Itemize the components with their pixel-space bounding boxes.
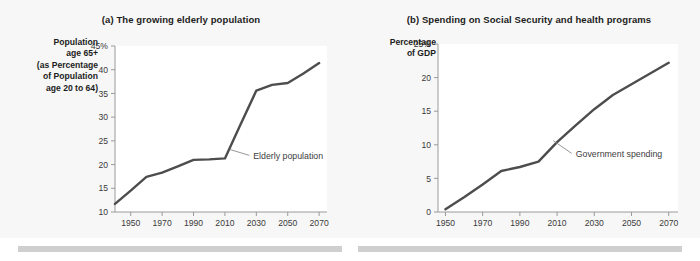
chart-panel-b: (b) Spending on Social Security and heal… xyxy=(350,0,700,238)
x-axis-tick-label: 1990 xyxy=(510,218,529,228)
x-axis-tick-label: 2070 xyxy=(310,218,329,228)
y-axis-tick-label: 15 xyxy=(98,183,108,193)
y-axis-tick-label: 30 xyxy=(98,112,108,122)
x-axis-tick-label: 1950 xyxy=(436,218,455,228)
chart-a-plot: 1015202530354045%19501970199020102030205… xyxy=(0,0,350,238)
x-axis-tick-label: 2030 xyxy=(585,218,604,228)
plot-background xyxy=(438,44,678,212)
x-axis-tick-label: 1970 xyxy=(473,218,492,228)
x-axis-tick-label: 2070 xyxy=(659,218,678,228)
x-axis-tick-label: 1970 xyxy=(153,218,172,228)
y-axis-tick-label: 40 xyxy=(98,65,108,75)
bottom-shadow-gap xyxy=(342,246,358,252)
x-axis-tick-label: 1950 xyxy=(121,218,140,228)
y-axis-tick-label: 25 xyxy=(98,136,108,146)
y-axis-tick-label: 20 xyxy=(98,160,108,170)
y-axis-tick-label: 10 xyxy=(421,140,431,150)
y-axis-label-line: of GDP xyxy=(352,48,436,59)
chart-panel-a: (a) The growing elderly population Popul… xyxy=(0,0,350,238)
y-axis-tick-label: 15 xyxy=(421,106,431,116)
annotation-label: Elderly population xyxy=(253,151,323,161)
y-axis-tick-label: 10 xyxy=(98,207,108,217)
y-axis-tick-label: 20 xyxy=(421,73,431,83)
x-axis-tick-label: 2010 xyxy=(548,218,567,228)
plot-background xyxy=(115,46,327,212)
chart-b-plot: 0510152025%1950197019902010203020502070G… xyxy=(350,0,700,238)
x-axis-tick-label: 2050 xyxy=(622,218,641,228)
y-axis-tick-label: 0 xyxy=(426,207,431,217)
x-axis-tick-label: 2050 xyxy=(278,218,297,228)
y-axis-label-line: Percentage xyxy=(352,37,436,48)
y-axis-tick-label: 45% xyxy=(91,41,109,51)
chart-b-y-axis-label: Percentage of GDP xyxy=(352,37,436,60)
y-axis-tick-label: 35 xyxy=(98,89,108,99)
x-axis-tick-label: 1990 xyxy=(184,218,203,228)
x-axis-tick-label: 2010 xyxy=(215,218,234,228)
annotation-label: Government spending xyxy=(576,149,663,159)
y-axis-tick-label: 5 xyxy=(426,174,431,184)
figure-container: (a) The growing elderly population Popul… xyxy=(0,0,700,261)
x-axis-tick-label: 2030 xyxy=(247,218,266,228)
